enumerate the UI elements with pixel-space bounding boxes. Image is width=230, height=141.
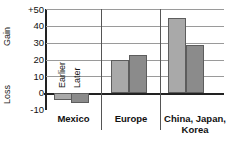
plot-area: Earlier Later [46, 9, 224, 110]
series-label-later: Later [72, 67, 82, 88]
y-tick-50: +50 [10, 6, 44, 14]
gridline-neg10 [46, 109, 224, 110]
y-axis-tick-labels: +50 40 30 20 10 0 -10 [8, 0, 44, 141]
category-label-china-japan-korea: China, Japan, Korea [160, 114, 230, 135]
y-tick-20: 20 [10, 56, 44, 64]
cjk-line-2: Korea [182, 124, 209, 135]
gridline-30 [46, 43, 224, 44]
gridline-40 [46, 26, 224, 27]
bar-chart: Gain Loss +50 40 30 20 10 0 -10 Earlier [0, 0, 230, 141]
bar-mexico-earlier[interactable] [54, 93, 72, 100]
y-tick-0: 0 [10, 89, 44, 97]
group-separator-1 [101, 9, 102, 130]
category-label-europe: Europe [103, 114, 159, 125]
y-tick-40: 40 [10, 22, 44, 30]
bar-europe-later[interactable] [129, 55, 147, 93]
y-tick-neg10: -10 [10, 106, 44, 114]
gridline-50 [46, 9, 224, 10]
category-label-mexico: Mexico [46, 114, 101, 125]
series-label-earlier: Earlier [57, 62, 67, 88]
bar-europe-earlier[interactable] [111, 60, 129, 93]
y-tick-30: 30 [10, 39, 44, 47]
bar-mexico-later[interactable] [71, 93, 89, 103]
y-tick-10: 10 [10, 73, 44, 81]
cjk-line-1: China, Japan, [164, 113, 226, 124]
bar-china-japan-korea-earlier[interactable] [168, 18, 186, 93]
group-separator-2 [160, 9, 161, 130]
bar-china-japan-korea-later[interactable] [186, 45, 204, 93]
